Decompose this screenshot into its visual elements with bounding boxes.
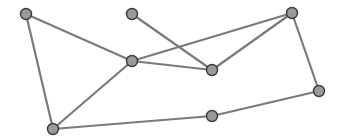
graph-diagram bbox=[0, 0, 342, 138]
edge-a-h bbox=[26, 14, 53, 129]
node-c bbox=[127, 56, 138, 67]
edge-a-c bbox=[26, 14, 132, 61]
edge-layer bbox=[26, 13, 319, 129]
edge-c-h bbox=[53, 61, 132, 129]
edge-d-e bbox=[212, 13, 292, 70]
node-f bbox=[314, 86, 325, 97]
edge-f-g bbox=[212, 91, 319, 116]
node-h bbox=[48, 124, 59, 135]
node-g bbox=[207, 111, 218, 122]
edge-d-f bbox=[292, 13, 319, 91]
node-d bbox=[287, 8, 298, 19]
edge-c-d bbox=[132, 13, 292, 61]
node-b bbox=[127, 9, 138, 20]
node-layer bbox=[21, 8, 325, 135]
node-a bbox=[21, 9, 32, 20]
edge-h-g bbox=[53, 116, 212, 129]
node-e bbox=[207, 65, 218, 76]
